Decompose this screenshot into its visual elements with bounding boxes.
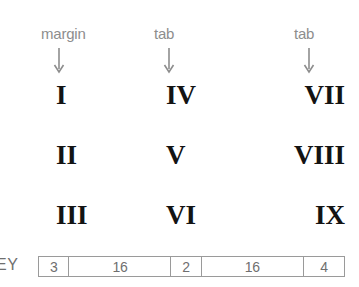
grid-cell-2-2: V — [166, 140, 186, 170]
grid-cell-1-2: IV — [166, 80, 196, 110]
annotation-label-margin: margin — [41, 26, 86, 42]
measurement-bar: 3 16 2 16 4 — [38, 256, 345, 277]
measurement-cell-4: 16 — [202, 257, 304, 276]
grid-cell-3-2: VI — [166, 200, 196, 230]
annotation-label-tab-2: tab — [294, 26, 314, 42]
key-label: EY — [0, 256, 18, 274]
grid-cell-1-3: VII — [304, 80, 345, 110]
measurement-cell-5: 4 — [304, 257, 344, 276]
grid-cell-3-3: IX — [315, 200, 345, 230]
measurement-cell-3: 2 — [171, 257, 201, 276]
measurement-cell-1: 3 — [39, 257, 69, 276]
annotation-label-tab-1: tab — [154, 26, 174, 42]
grid-cell-2-3: VIII — [294, 140, 345, 170]
grid-cell-1-1: I — [56, 80, 67, 110]
measurement-cell-2: 16 — [69, 257, 171, 276]
grid-cell-3-1: III — [56, 200, 88, 230]
down-arrow-icon — [302, 48, 316, 74]
down-arrow-icon — [52, 48, 66, 74]
grid-cell-2-1: II — [56, 140, 77, 170]
layout-diagram: margin tab tab I IV VII II V VIII III VI… — [0, 0, 359, 287]
down-arrow-icon — [162, 48, 176, 74]
